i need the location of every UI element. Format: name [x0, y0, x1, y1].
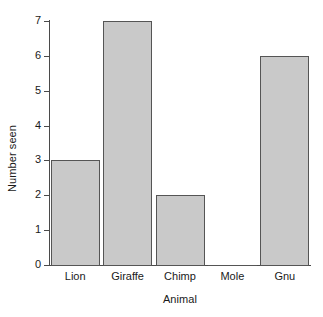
x-tick-label: Chimp [154, 270, 206, 283]
bar-chimp [156, 195, 205, 266]
y-tick-mark [44, 195, 49, 196]
x-tick-label: Mole [206, 270, 258, 283]
y-tick-label: 5 [26, 85, 41, 96]
bar-chart: Number seen 01234567 LionGiraffeChimpMol… [0, 0, 323, 317]
y-axis-title: Number seen [0, 0, 24, 317]
y-tick-mark [44, 265, 49, 266]
y-tick-label: 1 [26, 224, 41, 235]
bar-lion [51, 160, 100, 266]
y-tick-label: 4 [26, 120, 41, 131]
y-tick-label: 0 [26, 259, 41, 270]
y-tick-label: 3 [26, 154, 41, 165]
y-tick-mark [44, 21, 49, 22]
y-tick-mark [44, 160, 49, 161]
y-tick-label: 6 [26, 50, 41, 61]
x-tick-label: Gnu [259, 270, 311, 283]
bar-gnu [260, 56, 309, 266]
x-axis-title: Animal [49, 293, 311, 305]
y-tick-mark [44, 91, 49, 92]
x-tick-label: Giraffe [101, 270, 153, 283]
y-axis-line [49, 20, 50, 266]
y-tick-mark [44, 56, 49, 57]
bar-giraffe [103, 21, 152, 266]
y-tick-label: 2 [26, 189, 41, 200]
y-tick-mark [44, 230, 49, 231]
bar-mole [208, 265, 257, 266]
y-tick-label: 7 [26, 15, 41, 26]
x-tick-label: Lion [49, 270, 101, 283]
y-tick-mark [44, 126, 49, 127]
